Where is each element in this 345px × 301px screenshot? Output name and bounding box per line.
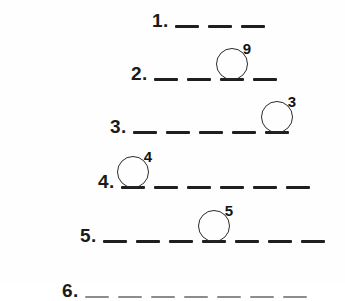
blank-underline — [268, 240, 292, 243]
letter-blank[interactable] — [220, 163, 244, 189]
letter-blank[interactable] — [286, 163, 310, 189]
letter-blank[interactable] — [208, 2, 232, 28]
puzzle-row-3[interactable]: 3.3 — [110, 108, 289, 134]
letter-blank[interactable] — [184, 272, 208, 298]
clue-number-label: 9 — [243, 41, 251, 56]
letter-blank[interactable] — [133, 108, 157, 134]
blank-group-2: 9 — [154, 55, 277, 81]
puzzle-row-6-clipped[interactable]: 6. — [62, 272, 307, 298]
puzzle-row-2[interactable]: 2.9 — [131, 55, 277, 81]
blank-underline — [118, 296, 142, 298]
letter-blank[interactable] — [151, 272, 175, 298]
letter-blank[interactable] — [241, 2, 265, 28]
letter-blank[interactable] — [268, 217, 292, 243]
blank-underline — [184, 296, 208, 298]
blank-underline — [283, 296, 307, 298]
blank-group-6 — [85, 272, 307, 298]
blank-underline — [151, 296, 175, 298]
blank-underline — [169, 240, 193, 243]
blank-group-4: 4 — [121, 163, 310, 189]
blank-group-3: 3 — [133, 108, 289, 134]
row-number-label-3: 3. — [110, 117, 127, 136]
letter-blank[interactable] — [154, 163, 178, 189]
letter-blank[interactable] — [169, 217, 193, 243]
blank-underline — [187, 186, 211, 189]
blank-underline — [286, 186, 310, 189]
blank-underline — [217, 296, 241, 298]
blank-underline — [241, 25, 265, 28]
blank-underline — [301, 240, 325, 243]
letter-blank[interactable] — [301, 217, 325, 243]
clue-number-label: 4 — [144, 149, 152, 164]
blank-underline — [250, 296, 274, 298]
row-number-label-5: 5. — [80, 226, 97, 245]
clue-number-label: 3 — [288, 94, 296, 109]
letter-blank[interactable] — [166, 108, 190, 134]
blank-group-1 — [175, 2, 265, 28]
row-number-label-6: 6. — [62, 281, 79, 300]
blank-underline — [208, 25, 232, 28]
letter-blank[interactable] — [232, 108, 256, 134]
blank-underline — [175, 25, 199, 28]
blank-underline — [154, 78, 178, 81]
letter-blank[interactable] — [136, 217, 160, 243]
blank-underline — [232, 131, 256, 134]
blank-group-5: 5 — [103, 217, 325, 243]
letter-blank[interactable]: 5 — [202, 217, 226, 243]
clue-number-label: 5 — [225, 203, 233, 218]
letter-blank[interactable] — [217, 272, 241, 298]
letter-blank[interactable]: 4 — [121, 163, 145, 189]
blank-underline — [253, 78, 277, 81]
letter-blank[interactable] — [118, 272, 142, 298]
letter-blank[interactable] — [154, 55, 178, 81]
letter-blank[interactable]: 9 — [220, 55, 244, 81]
letter-blank[interactable] — [235, 217, 259, 243]
blank-underline — [103, 240, 127, 243]
letter-blank[interactable] — [103, 217, 127, 243]
letter-blank[interactable] — [85, 272, 109, 298]
blank-underline — [85, 296, 109, 298]
puzzle-row-1[interactable]: 1. — [152, 2, 265, 28]
letter-blank[interactable] — [187, 55, 211, 81]
row-number-label-1: 1. — [152, 11, 169, 30]
blank-underline — [187, 78, 211, 81]
letter-blank[interactable] — [187, 163, 211, 189]
blank-underline — [136, 240, 160, 243]
letter-blank[interactable] — [253, 55, 277, 81]
letter-blank[interactable]: 3 — [265, 108, 289, 134]
letter-blank[interactable] — [283, 272, 307, 298]
puzzle-row-4[interactable]: 4.4 — [98, 163, 310, 189]
row-number-label-2: 2. — [131, 64, 148, 83]
row-number-label-4: 4. — [98, 172, 115, 191]
blank-underline — [235, 240, 259, 243]
blank-underline — [154, 186, 178, 189]
blank-underline — [133, 131, 157, 134]
blank-underline — [253, 186, 277, 189]
letter-blank[interactable] — [199, 108, 223, 134]
letter-blank[interactable] — [175, 2, 199, 28]
letter-blank[interactable] — [253, 163, 277, 189]
blank-underline — [199, 131, 223, 134]
blank-underline — [220, 186, 244, 189]
blank-underline — [166, 131, 190, 134]
puzzle-row-5[interactable]: 5.5 — [80, 217, 325, 243]
letter-blank[interactable] — [250, 272, 274, 298]
